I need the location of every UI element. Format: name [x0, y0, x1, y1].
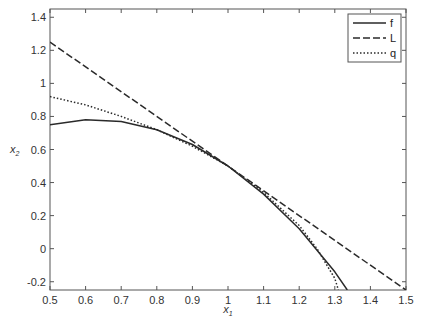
- y-tick-label: 0: [40, 243, 46, 255]
- chart: 0.50.60.70.80.911.11.21.31.41.5-0.200.20…: [0, 0, 422, 330]
- x-tick-label: 1.1: [256, 294, 271, 306]
- y-tick-label: 0.2: [31, 210, 46, 222]
- x-tick-label: 1.2: [292, 294, 307, 306]
- x-tick-label: 0.7: [114, 294, 129, 306]
- legend: fLq: [348, 14, 401, 62]
- y-tick-label: 1: [40, 77, 46, 89]
- legend-label-q: q: [390, 47, 396, 59]
- y-tick-label: -0.2: [27, 276, 46, 288]
- x-tick-label: 0.8: [149, 294, 164, 306]
- y-tick-label: 0.8: [31, 110, 46, 122]
- y-axis-label: x2: [9, 143, 20, 157]
- y-tick-label: 1.2: [31, 44, 46, 56]
- y-tick-label: 0.6: [31, 144, 46, 156]
- y-tick-label: 1.4: [31, 11, 46, 23]
- x-tick-label: 0.5: [42, 294, 57, 306]
- y-tick-label: 0.4: [31, 177, 46, 189]
- x-axis-label: x1: [222, 303, 233, 317]
- x-tick-label: 0.6: [78, 294, 93, 306]
- legend-label-L: L: [390, 32, 396, 44]
- x-tick-label: 1.5: [398, 294, 413, 306]
- x-tick-label: 1.3: [327, 294, 342, 306]
- x-tick-label: 1.4: [363, 294, 378, 306]
- x-tick-label: 0.9: [185, 294, 200, 306]
